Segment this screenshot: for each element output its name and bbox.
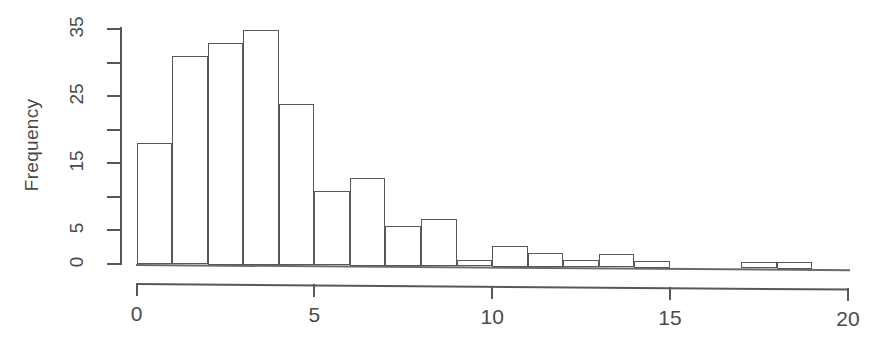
histogram-bar	[599, 254, 635, 267]
histogram-bar	[208, 43, 244, 265]
histogram-bar	[314, 191, 350, 265]
histogram-bar	[457, 260, 493, 267]
histogram-bar	[634, 261, 670, 268]
histogram-bar	[777, 262, 813, 269]
histogram-bar	[385, 226, 421, 266]
histogram-bar	[350, 178, 386, 265]
histogram-bar	[528, 253, 564, 266]
histogram-bar	[243, 30, 279, 265]
histogram-bar	[741, 262, 777, 269]
histogram-bar	[279, 104, 315, 265]
histogram-bar	[492, 246, 528, 266]
histogram-bars	[0, 0, 880, 346]
histogram-bar	[563, 260, 599, 267]
histogram-bar	[172, 56, 208, 264]
histogram-bar	[137, 143, 173, 264]
plot-area: 05152535 05101520	[0, 0, 880, 346]
histogram-figure: Frequency 05152535 05101520	[0, 0, 880, 346]
histogram-bar	[421, 219, 457, 266]
